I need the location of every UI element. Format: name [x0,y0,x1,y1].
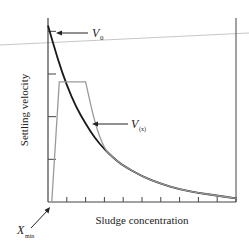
arrow-head-icon [56,31,62,36]
settling-diagram: V 0 V (x) X min Sludge concentration Set… [0,0,249,248]
annotation-v0: V 0 [56,26,104,42]
x-axis-label: Sludge concentration [95,214,189,226]
y-axis-label: Settling velocity [18,73,30,146]
series-limited-velocity [52,82,236,202]
vx-subscript: (x) [139,126,146,133]
series-settling-velocity [48,25,236,198]
arrow-line [31,210,48,228]
annotation-vx: V (x) [92,117,146,133]
v0-subscript: 0 [100,34,104,42]
xmin-label: X [16,223,25,237]
reference-line [0,33,249,45]
annotation-xmin: X min [16,207,50,239]
xmin-subscript: min [25,233,34,239]
